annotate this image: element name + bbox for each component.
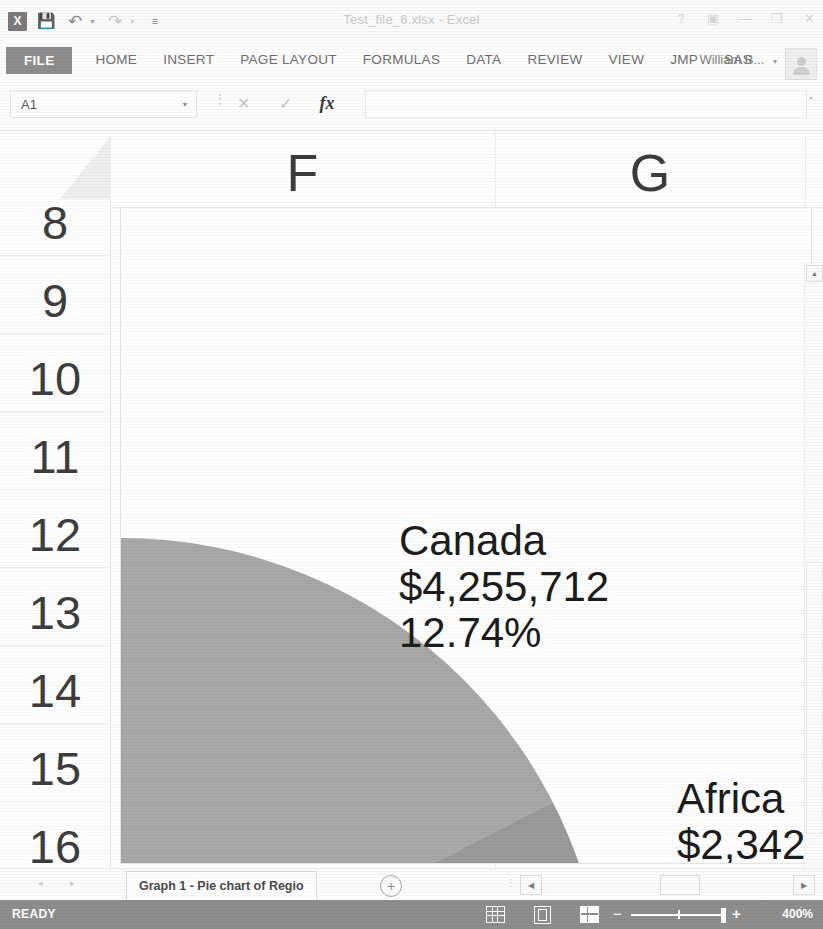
page-layout-view-icon[interactable] — [532, 905, 552, 924]
formula-bar-grip[interactable]: ⋮ — [214, 95, 226, 103]
column-header-f[interactable]: F — [110, 131, 495, 207]
window-controls: ? ▣ — ❐ ✕ — [673, 10, 817, 26]
zoom-slider-tick — [678, 910, 680, 919]
row-divider — [0, 723, 110, 724]
worksheet-grid: F G 8 9 10 11 12 13 14 15 16 — [0, 131, 823, 868]
name-box[interactable]: A1 ▾ — [10, 90, 197, 118]
cancel-icon[interactable]: ✕ — [233, 93, 253, 113]
close-icon[interactable]: ✕ — [801, 10, 817, 26]
tab-data[interactable]: DATA — [453, 40, 514, 80]
insert-function-icon[interactable]: fx — [317, 93, 337, 113]
zoom-slider[interactable]: − + — [613, 905, 743, 924]
vertical-scrollbar-thumb[interactable] — [806, 562, 823, 834]
zoom-in-icon[interactable]: + — [732, 907, 741, 920]
tab-file[interactable]: FILE — [6, 47, 72, 74]
horizontal-scrollbar[interactable]: ◀ ▶ — [520, 872, 815, 896]
formula-bar-buttons: ✕ ✓ fx — [233, 90, 337, 116]
column-header-row: F G — [0, 131, 823, 208]
horizontal-scrollbar-thumb[interactable] — [660, 875, 700, 895]
ribbon-display-options-icon[interactable]: ▣ — [705, 10, 721, 26]
status-bar-grip[interactable]: ⋮ — [795, 908, 806, 914]
status-bar: READY − + 400% ⋮ — [0, 900, 823, 929]
data-label-canada[interactable]: Canada $4,255,712 12.74% — [399, 518, 609, 657]
row-divider — [0, 801, 110, 802]
restore-icon[interactable]: ❐ — [769, 10, 785, 26]
excel-window: X 💾 ↶ ▼ ↷ ▼ ≡ Test_file_6.xlsx - Excel ?… — [0, 0, 823, 929]
data-label-africa-value: $2,342 — [677, 822, 805, 864]
help-icon[interactable]: ? — [673, 10, 689, 26]
data-label-africa-category: Africa — [677, 776, 805, 822]
tab-page-layout[interactable]: PAGE LAYOUT — [227, 40, 350, 80]
scroll-up-arrow-icon[interactable]: ▲ — [806, 265, 823, 282]
row-divider — [0, 333, 110, 334]
status-state-label: READY — [12, 907, 56, 921]
user-name-label: William B... — [699, 52, 764, 67]
view-mode-buttons — [485, 905, 599, 924]
scroll-left-arrow-icon[interactable]: ◀ — [520, 875, 542, 895]
sheet-tab-bar: ◂ ▸ Graph 1 - Pie chart of Regio + ⋮ ◀ ▶ — [0, 868, 823, 901]
tab-home[interactable]: HOME — [82, 40, 150, 80]
expand-formula-bar-icon[interactable]: ˇ — [809, 96, 813, 108]
scroll-right-arrow-icon[interactable]: ▶ — [793, 875, 815, 895]
tab-insert[interactable]: INSERT — [150, 40, 227, 80]
add-sheet-icon[interactable]: + — [380, 875, 402, 897]
select-all-triangle-icon[interactable] — [60, 137, 110, 199]
avatar[interactable] — [785, 48, 817, 80]
name-box-value: A1 — [11, 97, 183, 112]
row-header-8[interactable]: 8 — [0, 195, 110, 250]
sheet-nav-prev-icon[interactable]: ◂ — [38, 878, 43, 888]
scrollbar-grip[interactable]: ⋮ — [505, 880, 516, 886]
pie-chart-object[interactable]: Canada $4,255,712 12.74% Africa $2,342 7… — [120, 207, 812, 864]
normal-view-icon[interactable] — [485, 905, 505, 924]
tab-formulas[interactable]: FORMULAS — [350, 40, 453, 80]
page-break-preview-icon[interactable] — [579, 905, 599, 924]
user-caret-icon[interactable]: ▾ — [773, 57, 777, 66]
column-header-g[interactable]: G — [495, 131, 805, 207]
column-divider — [805, 131, 806, 207]
row-divider — [0, 255, 110, 256]
data-label-canada-value: $4,255,712 — [399, 564, 609, 610]
row-divider — [0, 567, 110, 568]
row-header-11[interactable]: 11 — [0, 429, 110, 484]
sheet-nav-arrows: ◂ ▸ — [38, 878, 75, 888]
row-header-column: 8 9 10 11 12 13 14 15 16 — [0, 207, 111, 868]
row-divider — [0, 411, 110, 412]
zoom-slider-thumb[interactable] — [721, 908, 726, 923]
ribbon-tab-bar: FILE HOME INSERT PAGE LAYOUT FORMULAS DA… — [0, 40, 823, 80]
vertical-scrollbar[interactable]: ▲ — [804, 262, 823, 868]
row-divider — [0, 489, 110, 490]
data-label-canada-category: Canada — [399, 518, 609, 564]
avatar-head-icon — [797, 57, 806, 66]
user-account-button[interactable]: William B... ▾ — [699, 40, 777, 82]
row-header-15[interactable]: 15 — [0, 741, 110, 796]
row-header-12[interactable]: 12 — [0, 507, 110, 562]
enter-icon[interactable]: ✓ — [275, 93, 295, 113]
name-box-caret-icon[interactable]: ▾ — [183, 100, 196, 109]
tab-review[interactable]: REVIEW — [514, 40, 595, 80]
row-header-10[interactable]: 10 — [0, 351, 110, 406]
formula-input[interactable] — [365, 90, 807, 118]
row-header-9[interactable]: 9 — [0, 273, 110, 328]
avatar-body-icon — [793, 67, 810, 75]
minimize-icon[interactable]: — — [737, 10, 753, 26]
row-header-13[interactable]: 13 — [0, 585, 110, 640]
ribbon-tabs: FILE HOME INSERT PAGE LAYOUT FORMULAS DA… — [0, 40, 765, 80]
sheet-nav-next-icon[interactable]: ▸ — [70, 878, 75, 888]
row-divider — [0, 645, 110, 646]
row-header-14[interactable]: 14 — [0, 663, 110, 718]
zoom-out-icon[interactable]: − — [613, 908, 622, 920]
tab-view[interactable]: VIEW — [595, 40, 657, 80]
data-label-africa[interactable]: Africa $2,342 7.02% — [677, 776, 805, 864]
sheet-tab-graph-1[interactable]: Graph 1 - Pie chart of Regio — [126, 871, 317, 902]
row-header-16[interactable]: 16 — [0, 819, 110, 868]
data-label-canada-percent: 12.74% — [399, 610, 609, 656]
title-bar: X 💾 ↶ ▼ ↷ ▼ ≡ Test_file_6.xlsx - Excel ?… — [0, 0, 823, 40]
